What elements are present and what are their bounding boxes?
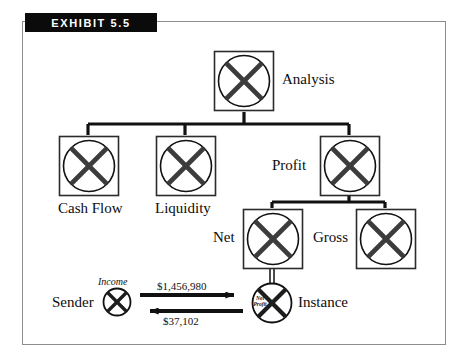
flow-label-instance: Instance — [298, 294, 348, 311]
node-sender-income[interactable] — [104, 289, 131, 316]
node-net[interactable] — [244, 210, 303, 269]
circle-cross-icon — [244, 210, 303, 269]
flow-label-sender: Sender — [52, 294, 94, 311]
circle-cross-icon — [215, 52, 274, 111]
node-label-analysis: Analysis — [282, 71, 335, 88]
circle-cross-icon — [157, 137, 216, 196]
node-label-profit: Profit — [272, 157, 306, 174]
circle-cross-icon — [60, 137, 119, 196]
node-liquidity[interactable] — [157, 137, 216, 196]
exhibit-header-label: EXHIBIT 5.5 — [51, 17, 130, 29]
exhibit-figure: EXHIBIT 5.5 — [0, 0, 474, 363]
node-gross[interactable] — [357, 210, 416, 269]
flow-amount-incoming: $37,102 — [163, 315, 199, 327]
circle-cross-icon — [321, 137, 380, 196]
node-analysis[interactable] — [215, 52, 274, 111]
node-label-net: Net — [213, 229, 235, 246]
flow-amount-outgoing: $1,456,980 — [157, 280, 207, 292]
node-cash-flow[interactable] — [60, 137, 119, 196]
flow-label-income: Income — [98, 276, 127, 287]
node-label-liquidity: Liquidity — [155, 200, 211, 217]
circle-cross-icon — [357, 210, 416, 269]
node-profit[interactable] — [321, 137, 380, 196]
instance-node-label-line2: Profit — [250, 301, 270, 307]
node-label-gross: Gross — [313, 229, 348, 246]
flow-arrows — [140, 295, 243, 311]
node-label-cash-flow: Cash Flow — [58, 200, 123, 217]
exhibit-header-badge: EXHIBIT 5.5 — [25, 13, 157, 32]
